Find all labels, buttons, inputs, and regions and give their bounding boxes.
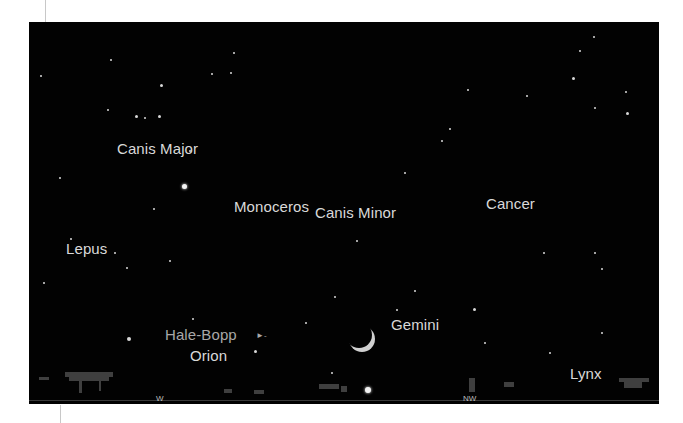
- star-icon: [593, 36, 595, 38]
- star-icon: [127, 337, 131, 341]
- star-icon: [59, 177, 61, 179]
- star-icon: [526, 95, 528, 97]
- star-icon: [396, 309, 398, 311]
- star-icon: [192, 318, 194, 320]
- sirius-star-icon: [182, 184, 187, 189]
- crescent-moon-icon: [346, 322, 372, 348]
- star-icon: [484, 342, 486, 344]
- star-icon: [356, 240, 358, 242]
- page-margin-rule-top: [45, 0, 46, 22]
- star-icon: [169, 260, 171, 262]
- star-icon: [579, 50, 581, 52]
- star-icon: [601, 268, 603, 270]
- compass-label-northwest: NW: [463, 395, 476, 403]
- star-icon: [467, 89, 469, 91]
- star-icon: [153, 208, 155, 210]
- star-icon: [144, 117, 146, 119]
- constellation-label-canis-minor: Canis Minor: [315, 205, 396, 221]
- comet-marker-icon: ►-: [256, 332, 267, 340]
- star-chart-image: Canis Major Monoceros Canis Minor Cancer…: [29, 22, 659, 404]
- star-icon: [230, 72, 232, 74]
- constellation-label-orion: Orion: [190, 348, 227, 364]
- star-icon: [135, 115, 138, 118]
- page-margin-rule-bottom: [60, 405, 61, 423]
- star-icon: [114, 252, 116, 254]
- star-icon: [543, 252, 545, 254]
- constellation-label-lynx: Lynx: [570, 366, 602, 382]
- star-icon: [601, 332, 603, 334]
- star-icon: [441, 140, 443, 142]
- star-icon: [334, 296, 336, 298]
- star-icon: [43, 282, 45, 284]
- star-icon: [626, 112, 629, 115]
- constellation-label-monoceros: Monoceros: [234, 199, 309, 215]
- compass-label-west: W: [156, 395, 164, 403]
- star-icon: [625, 91, 627, 93]
- star-icon: [107, 109, 109, 111]
- star-icon: [40, 75, 42, 77]
- constellation-label-canis-major: Canis Major: [117, 141, 198, 157]
- constellation-label-cancer: Cancer: [486, 196, 535, 212]
- constellation-label-gemini: Gemini: [391, 317, 439, 333]
- star-icon: [572, 77, 575, 80]
- star-icon: [126, 267, 128, 269]
- star-icon: [414, 290, 416, 292]
- star-icon: [160, 84, 163, 87]
- star-icon: [594, 252, 596, 254]
- star-icon: [473, 308, 476, 311]
- comet-label-hale-bopp: Hale-Bopp: [165, 327, 237, 343]
- star-icon: [254, 350, 257, 353]
- star-icon: [110, 59, 112, 61]
- star-icon: [404, 172, 406, 174]
- star-icon: [594, 107, 596, 109]
- star-icon: [158, 115, 161, 118]
- star-icon: [233, 52, 235, 54]
- constellation-label-lepus: Lepus: [66, 241, 107, 257]
- star-icon: [549, 352, 551, 354]
- horizon-silhouette: [29, 364, 659, 404]
- star-icon: [449, 128, 451, 130]
- star-icon: [211, 73, 213, 75]
- star-icon: [305, 322, 307, 324]
